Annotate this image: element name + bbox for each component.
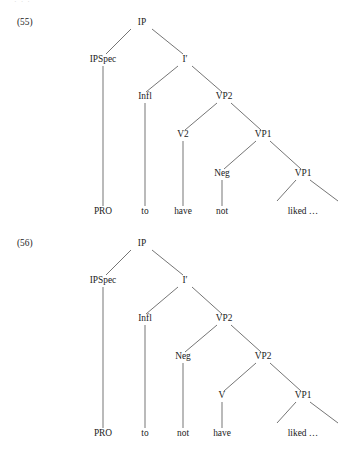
node-ipspec: IPSpec — [90, 54, 117, 64]
node-vp2-lower: VP2 — [255, 351, 272, 361]
leaf-not: not — [177, 428, 189, 438]
branch-ibar-to-infl — [146, 66, 178, 92]
node-neg: Neg — [214, 168, 230, 178]
leaf-to: to — [141, 206, 149, 216]
branch-vp2low-to-vp1 — [270, 363, 301, 391]
example-number-figure-56: (56) — [17, 238, 33, 249]
leaf-not: not — [216, 206, 228, 216]
branch-ip-to-ibar — [152, 250, 183, 275]
node-ibar: I′ — [182, 54, 187, 64]
node-vp1-upper: VP1 — [255, 129, 272, 139]
document-page: · · · (55)IPIPSpecI′InflVP2V2VP1NegVP1PR… — [0, 0, 360, 451]
syntax-tree-figures: (55)IPIPSpecI′InflVP2V2VP1NegVP1PROtohav… — [0, 0, 360, 451]
figure-56: (56)IPIPSpecI′InflVP2NegVP2VVP1PROtonoth… — [17, 238, 338, 438]
branch-vp1low-right-open — [310, 180, 338, 201]
leaf-have: have — [174, 206, 192, 216]
branch-ibar-to-infl — [146, 287, 178, 314]
branch-vp1low-left-open — [277, 180, 296, 201]
node-ip: IP — [138, 238, 146, 248]
branch-vp1-left-open — [277, 402, 296, 423]
branch-vp2up-to-neg — [185, 325, 217, 352]
branch-vp2low-to-v — [224, 363, 256, 391]
node-infl: Infl — [138, 313, 152, 323]
leaf-have: have — [213, 428, 231, 438]
node-vp2: VP2 — [216, 91, 233, 101]
branch-ibar-to-vp2 — [192, 66, 222, 92]
node-ipspec: IPSpec — [90, 275, 117, 285]
branch-ip-to-ipspec — [106, 29, 131, 54]
branch-ip-to-ibar — [152, 29, 183, 54]
leaf-liked: liked … — [288, 206, 318, 216]
node-infl: Infl — [138, 91, 152, 101]
node-vp2-upper: VP2 — [216, 313, 233, 323]
branch-ibar-to-vp2up — [192, 287, 222, 314]
branch-vp2-to-vp1upper — [231, 103, 261, 130]
example-number-figure-55: (55) — [17, 17, 33, 28]
node-ip: IP — [138, 17, 146, 27]
leaf-to: to — [141, 428, 149, 438]
leaf-pro: PRO — [94, 428, 112, 438]
node-neg: Neg — [175, 351, 191, 361]
branch-vp1-right-open — [310, 402, 338, 423]
node-vp1-lower: VP1 — [295, 168, 312, 178]
branch-vp1upper-to-neg — [224, 141, 256, 169]
node-v2: V2 — [177, 129, 189, 139]
branch-vp2-to-v2 — [185, 103, 217, 130]
figure-55: (55)IPIPSpecI′InflVP2V2VP1NegVP1PROtohav… — [17, 17, 338, 216]
node-ibar: I′ — [182, 275, 187, 285]
leaf-liked: liked … — [288, 428, 318, 438]
node-v: V — [219, 390, 226, 400]
branch-vp1upper-to-vp1low — [270, 141, 301, 169]
branch-ip-to-ipspec — [106, 250, 131, 275]
branch-vp2up-to-vp2low — [231, 325, 261, 352]
leaf-pro: PRO — [94, 206, 112, 216]
node-vp1: VP1 — [295, 390, 312, 400]
